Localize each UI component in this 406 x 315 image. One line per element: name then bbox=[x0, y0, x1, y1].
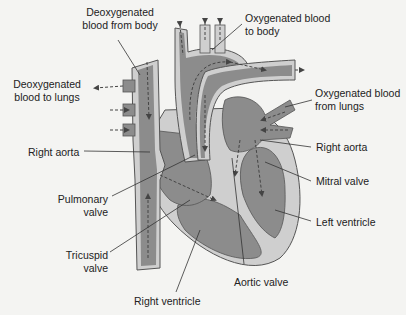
label-right-aorta-right: Right aorta bbox=[316, 141, 367, 154]
label-line: Pulmonary bbox=[50, 193, 108, 206]
label-deoxy-blood-from-body: Deoxygenated blood from body bbox=[72, 6, 168, 31]
label-line: Deoxygenated bbox=[12, 78, 82, 91]
label-mitral-valve: Mitral valve bbox=[316, 175, 369, 188]
label-oxy-blood-to-body: Oxygenated blood to body bbox=[245, 12, 330, 37]
label-right-aorta-left: Right aorta bbox=[28, 146, 79, 159]
label-pulmonary-valve: Pulmonary valve bbox=[50, 193, 108, 218]
label-line: blood from body bbox=[72, 19, 168, 32]
label-line: Oxygenated blood bbox=[315, 87, 400, 100]
label-deoxy-blood-to-lungs: Deoxygenated blood to lungs bbox=[12, 78, 82, 103]
label-aortic-valve: Aortic valve bbox=[234, 276, 288, 289]
label-oxy-blood-from-lungs: Oxygenated blood from lungs bbox=[315, 87, 400, 112]
label-line: valve bbox=[50, 262, 108, 275]
label-tricuspid-valve: Tricuspid valve bbox=[50, 249, 108, 274]
label-line: to body bbox=[245, 25, 330, 38]
label-line: Tricuspid bbox=[50, 249, 108, 262]
label-right-ventricle: Right ventricle bbox=[134, 295, 201, 308]
label-line: Deoxygenated bbox=[72, 6, 168, 19]
label-left-ventricle: Left ventricle bbox=[316, 216, 376, 229]
label-line: blood to lungs bbox=[12, 91, 82, 104]
pulmonary-artery-branches-left bbox=[123, 80, 135, 136]
label-line: Oxygenated blood bbox=[245, 12, 330, 25]
label-line: from lungs bbox=[315, 100, 400, 113]
label-line: valve bbox=[50, 206, 108, 219]
